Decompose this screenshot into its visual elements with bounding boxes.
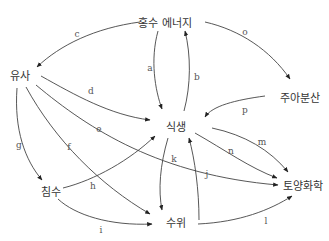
edge-label-o: o xyxy=(242,27,247,37)
edge-c xyxy=(37,22,140,67)
node-soil-chemistry: 토양화학 xyxy=(283,177,323,193)
edge-g xyxy=(17,88,42,180)
edge-label-i: i xyxy=(100,225,103,235)
causal-diagram: 홍수 에너지 유사 주아분산 식생 침수 토양화학 수위 c a b o p d… xyxy=(0,0,329,241)
edge-label-e: e xyxy=(96,124,101,134)
edge-p xyxy=(205,96,265,117)
edge-l xyxy=(198,196,292,224)
edge-h xyxy=(63,136,155,188)
edge-a xyxy=(154,31,162,109)
edge-label-b: b xyxy=(194,72,200,82)
edge-j xyxy=(189,138,199,220)
edge-label-g: g xyxy=(16,140,22,150)
edge-b xyxy=(184,31,189,111)
edge-label-a: a xyxy=(147,63,152,73)
node-water-level: 수위 xyxy=(166,214,186,230)
node-sediment: 유사 xyxy=(10,67,30,83)
edge-d xyxy=(41,76,150,120)
node-vegetation: 식생 xyxy=(166,118,186,134)
edge-k xyxy=(160,138,168,210)
edge-label-h: h xyxy=(90,181,96,191)
edge-label-k: k xyxy=(171,154,176,164)
edge-label-c: c xyxy=(74,29,79,39)
edge-label-l: l xyxy=(265,216,268,226)
edge-label-f: f xyxy=(67,142,70,152)
edge-i xyxy=(58,199,152,224)
node-inundation: 침수 xyxy=(41,183,61,199)
edge-label-m: m xyxy=(258,137,267,147)
edges-layer xyxy=(0,0,329,241)
node-flood-energy: 홍수 에너지 xyxy=(138,14,192,30)
node-propagule-dispersal: 주아분산 xyxy=(280,89,320,105)
edge-label-j: j xyxy=(206,169,209,179)
edge-label-n: n xyxy=(228,146,234,156)
edge-label-d: d xyxy=(88,86,94,96)
edge-label-p: p xyxy=(242,105,248,115)
